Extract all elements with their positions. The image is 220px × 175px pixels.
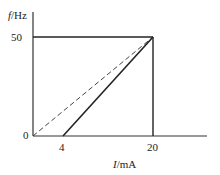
solid-line — [63, 37, 153, 136]
y-axis-label: f/Hz — [8, 9, 27, 21]
chart-svg: f/Hz 50 0 4 20 I/mA — [0, 0, 220, 175]
x-axis-label: I/mA — [112, 158, 136, 170]
dashed-line — [33, 37, 153, 136]
y-tick-50: 50 — [11, 31, 23, 43]
x-tick-4: 4 — [59, 141, 65, 153]
frequency-current-chart: f/Hz 50 0 4 20 I/mA — [0, 0, 220, 175]
origin-label: 0 — [23, 129, 29, 141]
x-tick-20: 20 — [147, 141, 159, 153]
